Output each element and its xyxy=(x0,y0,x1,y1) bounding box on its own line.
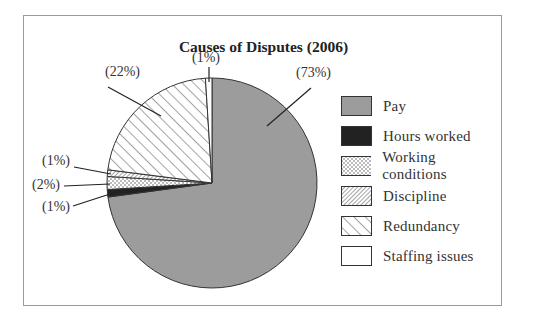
swatch-hours-worked xyxy=(341,126,372,146)
legend-label: Redundancy xyxy=(383,218,460,235)
legend-label: Staffing issues xyxy=(383,248,474,265)
label-discipline-percent: (1%) xyxy=(42,153,70,169)
swatch-redundancy xyxy=(341,216,372,236)
legend-item-working-conditions: Working conditions xyxy=(341,151,501,181)
legend-item-discipline: Discipline xyxy=(341,181,501,211)
legend-label: Pay xyxy=(383,98,406,115)
legend-item-staffing-issues: Staffing issues xyxy=(341,241,501,271)
leader-line-hours-worked xyxy=(73,194,110,206)
swatch-discipline xyxy=(341,186,372,206)
label-staffing-percent: (1%) xyxy=(192,50,220,66)
label-pay-percent: (73%) xyxy=(296,65,331,81)
swatch-working-conditions xyxy=(341,156,371,176)
legend-label: Hours worked xyxy=(383,128,471,145)
label-redundancy-percent: (22%) xyxy=(105,64,140,80)
legend-label: Working conditions xyxy=(382,149,501,183)
slice-redundancy xyxy=(108,78,212,183)
legend-item-hours-worked: Hours worked xyxy=(341,121,501,151)
leader-line-discipline xyxy=(74,167,111,174)
swatch-pay xyxy=(341,96,372,116)
swatch-staffing-issues xyxy=(341,246,372,266)
legend-item-pay: Pay xyxy=(341,91,501,121)
label-hours-worked-percent: (1%) xyxy=(42,199,70,215)
leader-line-working-conditions xyxy=(64,184,110,186)
label-working-conditions-percent: (2%) xyxy=(32,177,60,193)
chart-frame: Causes of Disputes (2006) xyxy=(23,15,502,306)
legend-label: Discipline xyxy=(383,188,447,205)
legend: Pay Hours worked Working conditions Disc… xyxy=(341,91,501,271)
legend-item-redundancy: Redundancy xyxy=(341,211,501,241)
